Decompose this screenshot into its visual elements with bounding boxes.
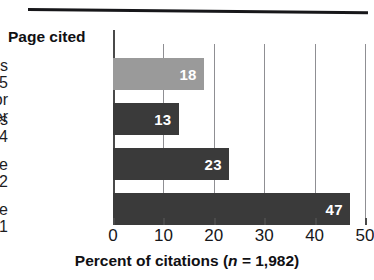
tick-0 bbox=[113, 218, 115, 225]
top-divider-rule bbox=[28, 8, 368, 14]
tick-50 bbox=[365, 218, 367, 225]
tick-label-10: 10 bbox=[154, 226, 173, 246]
tick-label-0: 0 bbox=[108, 226, 117, 246]
tick-label-40: 40 bbox=[305, 226, 324, 246]
plot-area: 18132347 bbox=[113, 44, 365, 218]
bar-row: 18 bbox=[113, 58, 365, 90]
tick-40 bbox=[315, 218, 317, 225]
bar-0: 18 bbox=[113, 58, 204, 90]
bar-row: 47 bbox=[113, 193, 365, 225]
category-label-1: Pages 3-4 bbox=[0, 111, 8, 145]
tick-30 bbox=[264, 218, 266, 225]
x-axis-title: Percent of citations (n = 1,982) bbox=[0, 252, 374, 270]
bar-1: 13 bbox=[113, 103, 179, 135]
tick-10 bbox=[163, 218, 165, 225]
tick-label-50: 50 bbox=[356, 226, 374, 246]
bar-chart-figure: Page cited Pages 5 or higherPages 3-4Pag… bbox=[0, 0, 374, 280]
bar-value-label: 13 bbox=[154, 111, 171, 128]
bar-value-label: 18 bbox=[179, 66, 196, 83]
x-title-lead: Percent of citations ( bbox=[75, 252, 228, 269]
bar-value-label: 23 bbox=[205, 156, 222, 173]
bar-row: 23 bbox=[113, 148, 365, 180]
bar-2: 23 bbox=[113, 148, 229, 180]
tick-label-20: 20 bbox=[204, 226, 223, 246]
y-axis-title: Page cited bbox=[8, 28, 86, 46]
x-title-tail: = 1,982) bbox=[238, 252, 300, 269]
tick-label-30: 30 bbox=[255, 226, 274, 246]
bar-row: 13 bbox=[113, 103, 365, 135]
category-label-2: Page 2 bbox=[0, 156, 8, 190]
category-label-3: Page 1 bbox=[0, 201, 8, 235]
tick-20 bbox=[214, 218, 216, 225]
bar-value-label: 47 bbox=[326, 201, 343, 218]
gridline-50 bbox=[365, 44, 366, 218]
x-title-sample-symbol: n bbox=[228, 252, 237, 269]
